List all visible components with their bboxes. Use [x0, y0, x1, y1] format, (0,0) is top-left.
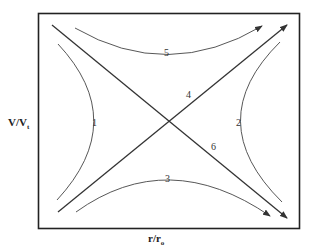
flow-diagram: 5 4 1 2 6 3: [0, 0, 311, 251]
label-3: 3: [165, 173, 170, 184]
y-axis-label: V/Vt: [8, 116, 29, 131]
curve-1: [57, 44, 94, 200]
x-axis-label: r/ro: [148, 232, 164, 247]
label-2: 2: [236, 117, 241, 128]
label-1: 1: [92, 117, 97, 128]
curve-2: [240, 42, 282, 202]
x-axis-label-sub: o: [161, 239, 165, 247]
curve-3: [76, 180, 270, 216]
x-axis-label-main: r/r: [148, 232, 161, 244]
y-axis-label-sub: t: [27, 123, 29, 131]
y-axis-label-main: V/V: [8, 116, 27, 128]
label-5: 5: [164, 47, 169, 58]
label-4: 4: [186, 89, 191, 100]
label-6: 6: [211, 141, 216, 152]
